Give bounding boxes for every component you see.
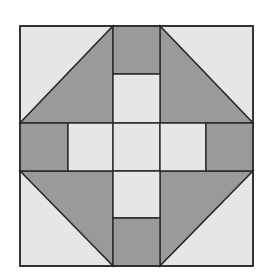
right-arm-inner bbox=[160, 123, 206, 171]
top-arm-inner bbox=[113, 74, 160, 123]
quilt-block-canvas bbox=[0, 0, 270, 276]
left-arm-outer bbox=[20, 123, 68, 171]
top-arm-outer bbox=[113, 26, 160, 74]
quilt-pieces bbox=[20, 26, 253, 266]
quilt-block-diagram bbox=[0, 0, 270, 276]
bottom-arm-inner bbox=[113, 171, 160, 218]
right-arm-outer bbox=[206, 123, 253, 171]
center-square bbox=[113, 123, 160, 171]
left-arm-inner bbox=[68, 123, 113, 171]
bottom-arm-outer bbox=[113, 218, 160, 266]
